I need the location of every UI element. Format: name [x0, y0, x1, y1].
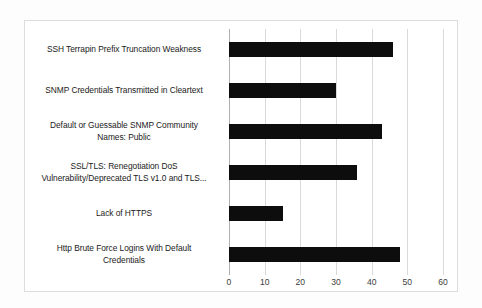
value-axis-tick-label: 50 — [403, 277, 413, 287]
value-axis-tick-label: 20 — [296, 277, 306, 287]
category-label: Http Brute Force Logins With Default Cre… — [25, 243, 223, 266]
category-label-line: Vulnerability/Deprecated TLS v1.0 and TL… — [41, 173, 206, 183]
category-label-cell: SSH Terrapin Prefix Truncation Weakness — [25, 29, 229, 70]
category-label-line: SSH Terrapin Prefix Truncation Weakness — [47, 44, 201, 54]
bar[interactable] — [229, 165, 357, 180]
value-axis-tick-label: 10 — [260, 277, 270, 287]
category-label: SNMP Credentials Transmitted in Cleartex… — [25, 85, 223, 97]
category-label: SSH Terrapin Prefix Truncation Weakness — [25, 44, 223, 56]
category-label-line: SSL/TLS: Renegotiation DoS — [70, 161, 177, 171]
chart-page: SSH Terrapin Prefix Truncation Weakness … — [0, 0, 482, 308]
bar[interactable] — [229, 247, 400, 262]
category-label-cell: SNMP Credentials Transmitted in Cleartex… — [25, 70, 229, 111]
value-axis-tick-label: 60 — [438, 277, 448, 287]
bar-row — [229, 29, 443, 70]
category-label-line: Http Brute Force Logins With Default — [57, 243, 192, 253]
category-label-line: SNMP Credentials Transmitted in Cleartex… — [45, 85, 202, 95]
value-axis-tick-label: 30 — [331, 277, 341, 287]
category-label-cell: Lack of HTTPS — [25, 193, 229, 234]
category-label-line: Default or Guessable SNMP Community — [50, 120, 198, 130]
value-axis-ticks: 0102030405060 — [229, 277, 443, 293]
bar[interactable] — [229, 124, 382, 139]
value-axis-tick-label: 0 — [227, 277, 232, 287]
chart-frame: SSH Terrapin Prefix Truncation Weakness … — [24, 20, 458, 292]
bar-row — [229, 193, 443, 234]
bar-row — [229, 70, 443, 111]
bar-row — [229, 234, 443, 275]
bar[interactable] — [229, 42, 393, 57]
category-label: Lack of HTTPS — [25, 208, 223, 220]
plot-area — [229, 29, 443, 275]
bar[interactable] — [229, 206, 283, 221]
value-axis-tick-label: 40 — [367, 277, 377, 287]
category-label-cell: Default or Guessable SNMP Community Name… — [25, 111, 229, 152]
bar-row — [229, 152, 443, 193]
category-label-line: Names: Public — [97, 132, 150, 142]
bar-series — [229, 29, 443, 275]
category-label: Default or Guessable SNMP Community Name… — [25, 120, 223, 143]
plot-wrapper: SSH Terrapin Prefix Truncation Weakness … — [25, 21, 457, 291]
category-label-cell: Http Brute Force Logins With Default Cre… — [25, 234, 229, 275]
category-label-line: Credentials — [103, 255, 145, 265]
category-label-cell: SSL/TLS: Renegotiation DoS Vulnerability… — [25, 152, 229, 193]
bar-row — [229, 111, 443, 152]
category-label-line: Lack of HTTPS — [96, 208, 152, 218]
bar[interactable] — [229, 83, 336, 98]
category-axis-labels: SSH Terrapin Prefix Truncation Weakness … — [25, 29, 229, 275]
category-label: SSL/TLS: Renegotiation DoS Vulnerability… — [25, 161, 223, 184]
gridline — [443, 29, 444, 275]
